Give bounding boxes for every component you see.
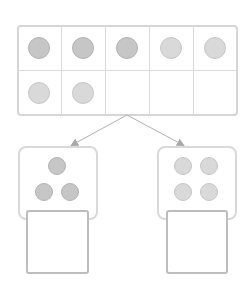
left-answer-box[interactable] bbox=[26, 210, 89, 274]
counter-dot bbox=[48, 157, 66, 175]
right-part-box bbox=[157, 146, 237, 220]
counter-dot bbox=[174, 157, 192, 175]
counter-dot bbox=[200, 157, 218, 175]
counter-dot bbox=[61, 183, 79, 201]
right-answer-box[interactable] bbox=[166, 210, 228, 274]
arrow-right bbox=[127, 115, 183, 145]
counter-dot bbox=[200, 183, 218, 201]
arrow-left bbox=[72, 115, 127, 145]
counter-dot bbox=[174, 183, 192, 201]
counter-dot bbox=[35, 183, 53, 201]
